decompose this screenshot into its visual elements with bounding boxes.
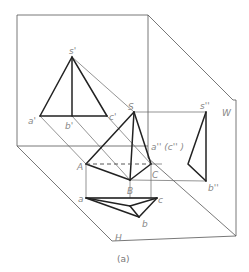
label-S: S [128, 102, 134, 112]
label-C: C [152, 170, 159, 180]
label-b: b [142, 219, 148, 229]
label-plane-H: H [115, 233, 122, 243]
h-projection-triangle [86, 198, 157, 217]
projection-diagram: s' a' b' c' S A B C a b c s'' a'' (c'' )… [0, 0, 249, 272]
label-a-prime: a' [28, 116, 36, 126]
label-A: A [76, 162, 83, 172]
v-plane [17, 15, 148, 158]
figure-caption: (a) [117, 254, 130, 264]
label-a: a [78, 194, 84, 204]
label-a-c-double-prime: a'' (c'' ) [151, 142, 184, 152]
label-b-double-prime: b'' [208, 183, 219, 193]
label-b-prime: b' [65, 121, 73, 131]
label-B: B [127, 186, 133, 196]
label-s-prime: s' [69, 46, 76, 56]
label-c-prime: c' [109, 112, 116, 122]
label-plane-W: W [222, 108, 232, 118]
label-c: c [158, 195, 163, 205]
w-projection-triangle [188, 112, 206, 181]
label-s-double-prime: s'' [200, 101, 210, 111]
v-projection-triangle [40, 57, 107, 116]
